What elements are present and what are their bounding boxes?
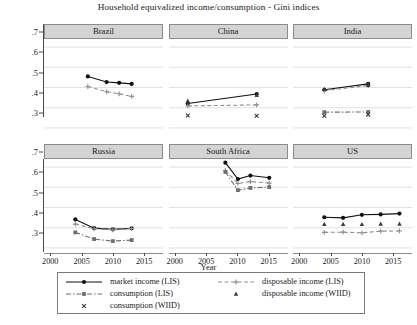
panel-title: India [293,24,412,39]
x-axis-label: 2010 [354,257,370,266]
x-axis-tick [362,253,363,256]
x-axis-label: 2010 [105,257,121,266]
x-axis-label: 2015 [261,257,277,266]
x-axis-label: 2000 [42,257,58,266]
panel-grid: BrazilChinaIndiaRussiaSouth AfricaUS [44,24,412,252]
y-axis-label: .5 [32,188,38,197]
y-axis-tick [39,192,43,193]
panel-plot-area [44,39,163,132]
panel-plot-area [169,159,288,252]
y-axis-tick [39,92,43,93]
y-axis-label: .4 [32,208,38,217]
y-axis-label: .6 [32,168,38,177]
legend-label: disposable income (WIID) [262,288,350,300]
x-axis-tick [113,253,114,256]
panel-title: Russia [44,144,163,159]
x-axis-tick [50,253,51,256]
x-axis-label: 2015 [385,257,401,266]
y-axis-tick [39,52,43,53]
y-axis-tick [39,232,43,233]
x-axis-label: 2000 [167,257,183,266]
chart-title: Household equivalized income/consumption… [0,2,417,12]
y-axis-label: .3 [32,108,38,117]
panel-plot-area [169,39,288,132]
x-axis-tick [144,253,145,256]
y-axis-label: .6 [32,48,38,57]
x-axis: 2000200520102015 [44,253,163,269]
y-axis-label: .4 [32,88,38,97]
y-axis-label: .5 [32,68,38,77]
panel-title: US [293,144,412,159]
chart-panel-south-africa: South Africa [169,144,288,252]
x-axis-tick [175,253,176,256]
legend-key-solid-circle-icon [64,276,106,288]
x-axis-tick [237,253,238,256]
x-axis-label: 2005 [73,257,89,266]
panel-title: Brazil [44,24,163,39]
y-axis-tick [39,112,43,113]
panel-plot-area [44,159,163,252]
x-axis-label: 2005 [198,257,214,266]
x-axis-tick [331,253,332,256]
chart-panel-china: China [169,24,288,132]
y-axis-label: .7 [32,28,38,37]
legend-label: consumption (LIS) [110,288,173,300]
chart-panel-india: India [293,24,412,132]
x-axis-tick [299,253,300,256]
legend-key-dashed-plus-icon [216,276,258,288]
figure-container: Household equivalized income/consumption… [0,0,417,325]
x-axis-tick [269,253,270,256]
y-axis-tick [39,152,43,153]
legend-key-cross-icon [64,300,106,312]
x-axis-tick [393,253,394,256]
y-axis-tick [39,32,43,33]
x-axis-label: 2000 [291,257,307,266]
y-axis-tick [39,72,43,73]
x-axis-label: 2015 [136,257,152,266]
x-axis: 2000200520102015 [293,253,412,269]
panel-plot-area [293,159,412,252]
panel-plot-area [293,39,412,132]
y-axis-tick [39,172,43,173]
x-axis-tick [82,253,83,256]
legend-key-dashdot-square-icon [64,288,106,300]
chart-legend: market income (LIS)disposable income (LI… [57,272,365,314]
y-axis-label: .3 [32,228,38,237]
x-axis-tick [206,253,207,256]
y-axis-label: .7 [32,148,38,157]
y-axis: .3.4.5.6.7.3.4.5.6.7 [0,24,44,252]
x-axis: 2000200520102015 [169,253,288,269]
y-axis-tick [39,212,43,213]
legend-key-triangle-icon [216,288,258,300]
legend-label: consumption (WIID) [110,300,180,312]
chart-panel-us: US [293,144,412,252]
legend-label: disposable income (LIS) [262,276,344,288]
chart-panel-russia: Russia [44,144,163,252]
legend-label: market income (LIS) [110,276,180,288]
x-axis-label: 2005 [322,257,338,266]
x-axis-label: 2010 [229,257,245,266]
panel-title: South Africa [169,144,288,159]
chart-panel-brazil: Brazil [44,24,163,132]
panel-title: China [169,24,288,39]
